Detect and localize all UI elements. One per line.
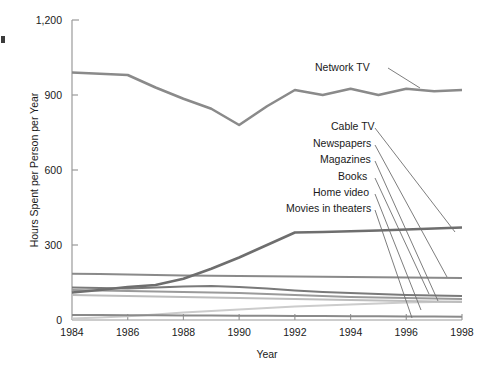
x-axis-title: Year bbox=[256, 348, 278, 360]
annotation-leader-line bbox=[375, 128, 455, 232]
y-axis-tick-label: 1,200 bbox=[36, 14, 62, 26]
series-annotation-label: Magazines bbox=[320, 153, 371, 165]
series-line bbox=[72, 274, 462, 278]
y-axis-tick-label: 900 bbox=[44, 89, 62, 101]
x-axis-tick-label: 1994 bbox=[339, 326, 363, 338]
y-axis-tick-label: 0 bbox=[56, 314, 62, 326]
series-line bbox=[72, 228, 462, 293]
annotations-layer: Network TVCable TVNewspapersMagazinesBoo… bbox=[286, 61, 455, 318]
y-axis-tick-label: 300 bbox=[44, 239, 62, 251]
series-annotation-label: Cable TV bbox=[331, 120, 375, 132]
y-axis-tick-label: 600 bbox=[44, 164, 62, 176]
annotation-leader-line bbox=[375, 145, 447, 277]
line-chart: 03006009001,2001984198619881990199219941… bbox=[0, 0, 493, 368]
series-annotation-label: Books bbox=[338, 170, 367, 182]
series-annotation-label: Network TV bbox=[315, 61, 370, 73]
x-axis-tick-label: 1998 bbox=[450, 326, 474, 338]
x-axis-tick-label: 1990 bbox=[227, 326, 251, 338]
series-layer bbox=[72, 73, 462, 319]
x-axis-tick-label: 1992 bbox=[283, 326, 307, 338]
series-annotation-label: Movies in theaters bbox=[286, 202, 371, 214]
x-axis-tick-label: 1986 bbox=[116, 326, 140, 338]
series-annotation-label: Newspapers bbox=[313, 137, 371, 149]
annotation-leader-line bbox=[388, 68, 420, 88]
series-annotation-label: Home video bbox=[313, 186, 369, 198]
x-axis-tick-label: 1984 bbox=[60, 326, 84, 338]
y-axis-title: Hours Spent per Person per Year bbox=[28, 92, 40, 247]
series-line bbox=[72, 73, 462, 126]
x-axis-tick-label: 1988 bbox=[172, 326, 196, 338]
x-axis-tick-label: 1996 bbox=[395, 326, 419, 338]
chart-container: 03006009001,2001984198619881990199219941… bbox=[0, 0, 493, 368]
